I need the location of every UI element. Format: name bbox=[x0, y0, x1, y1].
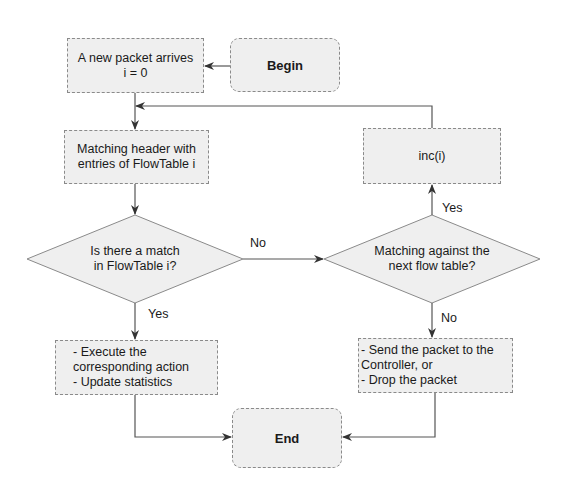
edge-label-next-yes: Yes bbox=[442, 201, 462, 215]
edge-label-match-yes: Yes bbox=[148, 307, 168, 321]
new-packet-box: A new packet arrives i = 0 bbox=[67, 38, 204, 93]
end-terminal: End bbox=[232, 408, 342, 468]
inc-text: inc(i) bbox=[418, 149, 445, 164]
end-text: End bbox=[275, 431, 300, 446]
edge-send-to-end bbox=[343, 393, 435, 437]
send-drop-box: - Send the packet to the Controller, or … bbox=[358, 338, 513, 393]
new-packet-text: A new packet arrives i = 0 bbox=[78, 51, 193, 81]
execute-box: - Execute the corresponding action - Upd… bbox=[55, 340, 218, 395]
edge-label-match-no: No bbox=[250, 236, 266, 250]
decision-next-text: Matching against the next flow table? bbox=[374, 244, 489, 274]
send-drop-text: - Send the packet to the Controller, or … bbox=[361, 343, 494, 388]
matching-header-box: Matching header with entries of FlowTabl… bbox=[64, 130, 209, 184]
decision-match-text: Is there a match in FlowTable i? bbox=[90, 244, 180, 274]
edge-inc-loopback bbox=[136, 106, 432, 128]
edge-label-next-no: No bbox=[441, 311, 457, 325]
begin-text: Begin bbox=[267, 58, 303, 73]
execute-text: - Execute the corresponding action - Upd… bbox=[73, 345, 189, 390]
matching-header-text: Matching header with entries of FlowTabl… bbox=[77, 142, 196, 172]
inc-box: inc(i) bbox=[363, 128, 501, 184]
begin-terminal: Begin bbox=[230, 38, 340, 92]
edge-execute-to-end bbox=[135, 395, 231, 437]
